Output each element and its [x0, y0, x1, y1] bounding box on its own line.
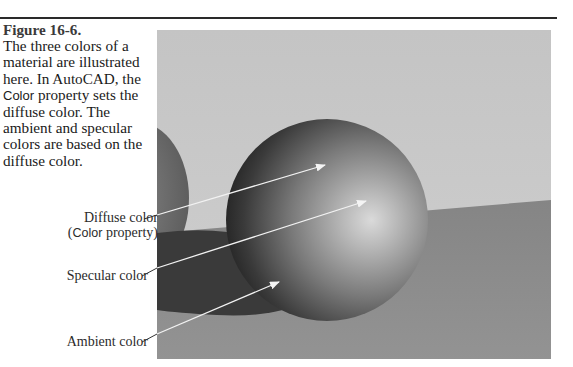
caption-part-1: The three colors of a material are illus… — [3, 37, 141, 86]
caption-color-term: Color — [3, 88, 34, 103]
caption-text: The three colors of a material are illus… — [3, 38, 153, 169]
callout-color-term: Color — [73, 226, 103, 240]
rendered-scene-image — [157, 30, 551, 359]
top-rule — [0, 17, 557, 19]
callout-diffuse-rest: property) — [102, 225, 158, 240]
figure-caption: Figure 16-6. The three colors of a mater… — [3, 22, 153, 169]
callout-diffuse-title: Diffuse color — [84, 210, 158, 225]
callout-ambient: Ambient color — [50, 334, 148, 349]
figure-label: Figure 16-6. — [3, 22, 153, 38]
callout-diffuse-sub: (Color property) — [68, 225, 158, 240]
callout-specular: Specular color — [50, 268, 148, 283]
callout-diffuse: Diffuse color (Color property) — [60, 210, 158, 241]
main-sphere — [226, 119, 428, 321]
